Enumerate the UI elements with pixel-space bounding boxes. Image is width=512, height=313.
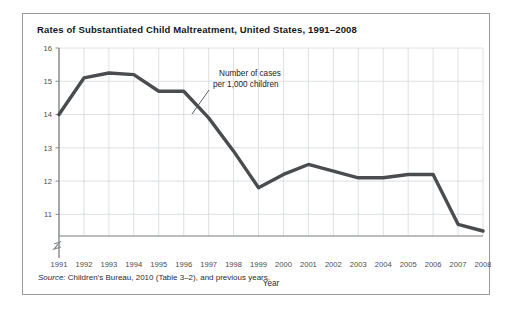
- svg-text:12: 12: [44, 177, 52, 186]
- figure-frame: Rates of Substantiated Child Maltreatmen…: [22, 13, 490, 295]
- svg-text:1996: 1996: [175, 260, 192, 269]
- svg-text:2000: 2000: [275, 260, 292, 269]
- svg-text:13: 13: [44, 144, 52, 153]
- svg-text:2004: 2004: [375, 260, 392, 269]
- svg-text:11: 11: [44, 210, 52, 219]
- svg-text:1999: 1999: [250, 260, 267, 269]
- line-chart-svg: 111213141516 199119921993199419951996199…: [23, 14, 491, 296]
- y-axis-tick-labels: 111213141516: [44, 44, 59, 219]
- svg-text:2003: 2003: [350, 260, 367, 269]
- x-axis-tick-labels: 1991199219931994199519961997199819992000…: [51, 260, 491, 269]
- svg-text:1998: 1998: [225, 260, 242, 269]
- svg-text:1991: 1991: [51, 260, 68, 269]
- axis-break-mark: [54, 242, 61, 249]
- annotation-line-1: Number of cases: [219, 69, 281, 78]
- source-label: Source:: [38, 273, 66, 282]
- svg-text:2006: 2006: [425, 260, 442, 269]
- svg-text:1995: 1995: [150, 260, 167, 269]
- svg-text:2007: 2007: [450, 260, 467, 269]
- svg-text:1997: 1997: [200, 260, 217, 269]
- source-text: Children’s Bureau, 2010 (Table 3–2), and…: [66, 273, 270, 282]
- svg-text:14: 14: [44, 110, 52, 119]
- svg-text:2008: 2008: [475, 260, 491, 269]
- chart-plot-area: 111213141516 199119921993199419951996199…: [23, 14, 491, 296]
- svg-text:1993: 1993: [100, 260, 117, 269]
- svg-text:2001: 2001: [300, 260, 317, 269]
- annotation-line-2: per 1,000 children: [213, 80, 279, 89]
- source-note: Source: Children’s Bureau, 2010 (Table 3…: [38, 273, 270, 282]
- svg-text:2005: 2005: [400, 260, 417, 269]
- data-series-line: [59, 73, 483, 231]
- svg-text:1992: 1992: [75, 260, 92, 269]
- svg-text:2002: 2002: [325, 260, 342, 269]
- svg-text:16: 16: [44, 44, 52, 53]
- svg-text:15: 15: [44, 77, 52, 86]
- svg-text:1994: 1994: [125, 260, 142, 269]
